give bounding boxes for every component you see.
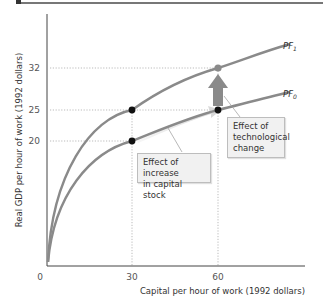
tech-change-arrow — [208, 74, 228, 106]
point-pf0-60 — [215, 107, 222, 114]
point-pf1-60 — [214, 64, 221, 71]
tech-leader-line — [224, 96, 240, 117]
tech-change-note: Effect of technological change — [227, 117, 285, 158]
x-tick-60: 60 — [212, 272, 224, 282]
y-axis-label: Real GDP per hour of work (1992 dollars) — [14, 53, 24, 228]
x-axis-label: Capital per hour of work (1992 dollars) — [140, 286, 305, 296]
y-tick-32: 32 — [29, 63, 40, 73]
y-tick-25: 25 — [29, 105, 40, 115]
capital-note-line2: in capital stock — [143, 179, 205, 201]
capital-note-line1: Effect of increase — [143, 157, 205, 179]
x-tick-30: 30 — [126, 272, 138, 282]
capital-leader-line — [168, 128, 182, 152]
pf0-label: PF0 — [283, 89, 297, 100]
point-pf0-30 — [129, 138, 136, 145]
capital-increase-note: Effect of increase in capital stock — [137, 153, 211, 183]
tech-note-line3: change — [233, 143, 279, 154]
origin-label: 0 — [37, 272, 43, 282]
point-pf1-30 — [129, 107, 136, 114]
pf1-label: PF1 — [283, 41, 297, 52]
tech-note-line2: technological — [233, 132, 279, 143]
tech-note-line1: Effect of — [233, 121, 279, 132]
y-tick-20: 20 — [29, 136, 41, 146]
